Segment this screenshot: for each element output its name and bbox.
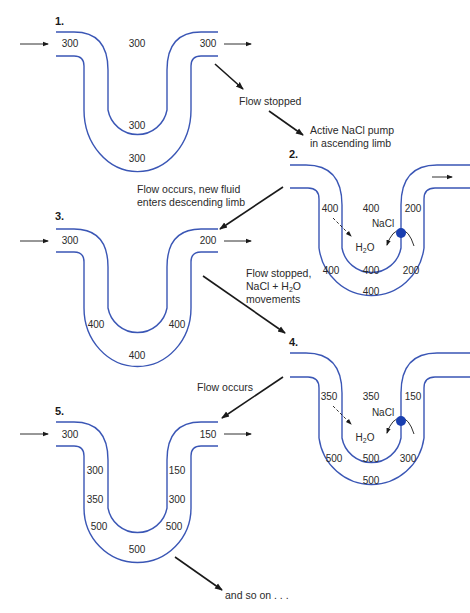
step-label-2: 2.	[289, 148, 298, 160]
osmolality-value: 400	[363, 203, 380, 215]
osmolality-value: 400	[363, 286, 380, 298]
nacl-label: NaCl	[372, 218, 394, 230]
panel-2-tube	[290, 165, 470, 295]
osmolality-value: 400	[129, 350, 146, 362]
osmolality-value: 400	[323, 265, 340, 277]
osmolality-value: 350	[321, 391, 338, 403]
caption-stopped-line1: Flow stopped,	[246, 267, 311, 280]
osmolality-value: 400	[322, 203, 339, 215]
caption-pump-line2: in ascending limb	[310, 137, 391, 150]
osmolality-value: 300	[169, 494, 186, 506]
water-label: H2O	[356, 242, 375, 257]
arrow-5-and-so-on	[175, 557, 222, 590]
osmolality-value: 300	[62, 235, 79, 247]
osmolality-value: 500	[363, 453, 380, 465]
osmolality-value: 500	[129, 544, 146, 556]
caption-new-fluid-line1: Flow occurs, new fluid	[137, 183, 240, 196]
caption-pump-line1: Active NaCl pump	[310, 124, 394, 137]
caption-new-fluid-line2: enters descending limb	[137, 196, 245, 209]
osmolality-value: 300	[62, 38, 79, 50]
nacl-pump-icon-2	[396, 228, 406, 238]
osmolality-value: 500	[166, 521, 183, 533]
osmolality-value: 150	[405, 391, 422, 403]
osmolality-value: 200	[403, 265, 420, 277]
osmolality-value: 150	[200, 429, 217, 441]
water-label: H2O	[356, 432, 375, 447]
arrow-1-to-flow-stopped	[215, 64, 243, 89]
diagram-graphics	[0, 0, 470, 613]
osmolality-value: 200	[405, 203, 422, 215]
panel-3-tube	[56, 229, 218, 367]
osmolality-value: 500	[326, 453, 343, 465]
step-label-4: 4.	[289, 336, 298, 348]
step-label-1: 1.	[55, 15, 64, 27]
osmolality-value: 500	[363, 475, 380, 487]
osmolality-value: 400	[169, 319, 186, 331]
osmolality-value: 150	[169, 465, 186, 477]
osmolality-value: 300	[400, 453, 417, 465]
nacl-pump-icon-4	[396, 416, 406, 426]
caption-and-so-on: and so on . . .	[225, 589, 289, 602]
caption-stopped-line3: movements	[246, 293, 300, 306]
caption-flow-occurs: Flow occurs	[197, 381, 253, 394]
osmolality-value: 500	[91, 521, 108, 533]
osmolality-value: 350	[363, 391, 380, 403]
osmolality-value: 400	[363, 265, 380, 277]
panel-1-tube	[56, 32, 218, 172]
arrow-flow-stopped-to-2	[269, 111, 303, 135]
osmolality-value: 350	[87, 494, 104, 506]
osmolality-value: 400	[88, 319, 105, 331]
osmolality-value: 300	[87, 465, 104, 477]
osmolality-value: 300	[129, 153, 146, 165]
osmolality-value: 300	[129, 120, 146, 132]
osmolality-value: 300	[62, 429, 79, 441]
osmolality-value: 300	[129, 38, 146, 50]
nacl-label: NaCl	[372, 407, 394, 419]
osmolality-value: 300	[200, 38, 217, 50]
panel-5-tube	[56, 422, 218, 563]
step-label-3: 3.	[55, 210, 64, 222]
countercurrent-multiplier-diagram: 1. 2. 3. 4. 5. 300 300 300 300 300 400 4…	[0, 0, 470, 613]
osmolality-value: 200	[200, 235, 217, 247]
caption-flow-stopped: Flow stopped	[239, 95, 301, 108]
step-label-5: 5.	[55, 405, 64, 417]
